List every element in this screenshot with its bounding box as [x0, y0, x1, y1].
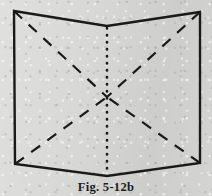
diagonal-bottom-left-to-center — [15, 97, 107, 164]
diagonal-bottom-right-to-center — [107, 97, 200, 163]
figure-caption: Fig. 5-12b — [0, 180, 212, 194]
figure-page: Fig. 5-12b — [0, 0, 212, 196]
figure-drawing — [0, 0, 212, 196]
